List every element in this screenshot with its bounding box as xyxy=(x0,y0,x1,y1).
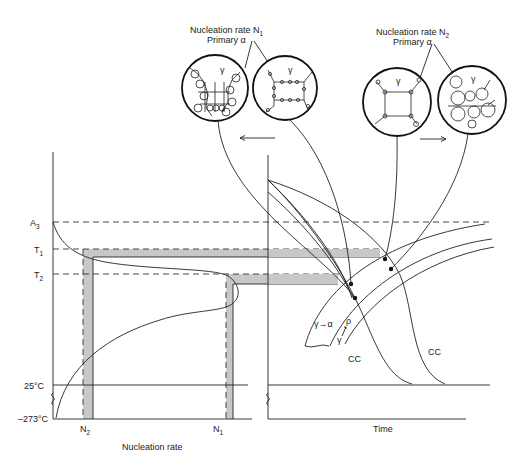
label-rho: ρ xyxy=(346,316,351,326)
gamma-label: γ xyxy=(220,65,225,75)
t1-band-right xyxy=(268,249,380,257)
label-room-temp: 25°C xyxy=(24,381,45,391)
band-bottom-edge xyxy=(305,345,329,347)
label-a3: A3 xyxy=(30,218,40,230)
tick-n1: N1 xyxy=(213,424,224,436)
left-x-axis-label: Nucleation rate xyxy=(122,442,183,452)
connector-n2-fine xyxy=(385,136,397,259)
gamma-label: γ xyxy=(471,74,476,84)
tick-n2: N2 xyxy=(80,424,91,436)
micrograph-group-n1: Nucleation rate N1 Primary α γ γ xyxy=(182,25,317,141)
arrow-gamma-to-rho xyxy=(342,327,346,336)
t2-band-right xyxy=(268,274,338,284)
micrograph-n1-fine xyxy=(253,56,317,120)
label-cc-left: CC xyxy=(348,354,361,364)
label-absolute-zero: –273°C xyxy=(18,414,49,424)
arrow-right xyxy=(420,137,446,142)
label-cc-right: CC xyxy=(428,347,441,357)
connector-lines xyxy=(218,120,468,298)
label-gamma: γ xyxy=(337,335,342,345)
connector-n2-coarse xyxy=(391,134,468,269)
right-x-axis-label: Time xyxy=(373,424,393,434)
right-panel: γ→α ρ γ CC CC Time xyxy=(267,155,495,434)
n2-band xyxy=(83,249,93,419)
n1-subtitle: Primary α xyxy=(207,35,246,45)
nucleation-diagram: A3 T1 T2 25°C –273°C N2 N1 Nucleation ra… xyxy=(0,0,532,469)
t2-band-left xyxy=(226,274,272,284)
arrow-left xyxy=(240,136,275,141)
n1-band xyxy=(226,282,233,419)
label-t1: T1 xyxy=(34,245,44,257)
n2-subtitle: Primary α xyxy=(393,37,432,47)
gamma-label: γ xyxy=(288,65,293,75)
t1-band-left xyxy=(83,249,272,257)
label-gamma-to-alpha: γ→α xyxy=(314,319,333,329)
label-t2: T2 xyxy=(34,270,44,282)
gamma-label: γ xyxy=(396,76,401,86)
micrograph-group-n2: Nucleation rate N2 Primary α γ γ xyxy=(363,27,506,142)
